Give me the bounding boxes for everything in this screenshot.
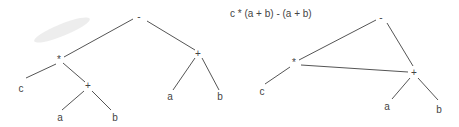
expression-title: c * (a + b) - (a + b) — [230, 8, 312, 19]
expression-diagram: c * (a + b) - (a + b) - * c + a b + a b — [0, 0, 459, 127]
smudge-artifact — [32, 13, 92, 47]
dag-edges — [265, 20, 438, 100]
dag-node-multiply: * — [292, 57, 296, 68]
tree-node-multiply: * — [57, 54, 61, 65]
diagram-svg: c * (a + b) - (a + b) - * c + a b + a b — [0, 0, 459, 127]
dag-node-plus-shared: + — [411, 67, 417, 78]
tree-node-a-right: a — [167, 91, 173, 102]
tree-node-c: c — [19, 83, 24, 94]
dag-node-b: b — [436, 104, 442, 115]
dag-node-c: c — [260, 86, 265, 97]
tree-node-b-right: b — [217, 91, 223, 102]
tree-node-plus-left: + — [85, 80, 91, 91]
dag: - * c + a b — [260, 12, 443, 115]
dag-node-a: a — [384, 101, 390, 112]
tree-node-b-left: b — [112, 112, 118, 123]
tree-node-plus-right: + — [195, 48, 201, 59]
tree-node-minus: - — [137, 11, 140, 22]
dag-node-minus: - — [379, 12, 382, 23]
tree-node-a-left: a — [57, 112, 63, 123]
